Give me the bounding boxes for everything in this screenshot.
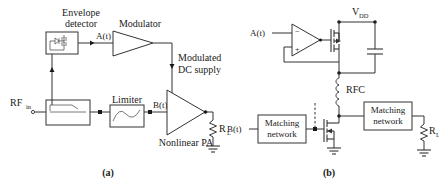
node-marker-nmos-gate xyxy=(313,127,317,131)
matching-network-output-label-line2: network xyxy=(373,116,403,126)
opamp-inverting-input-label: − xyxy=(295,27,300,36)
figure-container: Envelope detector A(t) Modulator xyxy=(0,0,439,187)
matching-network-input-label-line1: Matching xyxy=(265,118,300,128)
load-resistor-symbol-a xyxy=(210,120,217,137)
modulated-supply-label-line1: Modulated xyxy=(178,52,221,63)
ground-symbol-b-load xyxy=(417,150,431,156)
limiter-label: Limiter xyxy=(112,94,143,105)
panel-a: Envelope detector A(t) Modulator xyxy=(10,7,231,179)
coupler-box xyxy=(46,100,90,125)
envelope-detector-label-line1: Envelope xyxy=(62,7,100,18)
load-label-a: R xyxy=(219,123,226,134)
signal-a-label-panel-b: A(t) xyxy=(250,28,265,38)
ground-symbol-b-source xyxy=(327,148,341,154)
rf-in-label: RF xyxy=(10,97,23,108)
panel-b: V DD A(t) − + xyxy=(227,6,439,179)
rfc-inductor-symbol xyxy=(336,78,339,106)
bypass-capacitor-symbol xyxy=(367,49,383,54)
rf-in-label-subscript: in xyxy=(26,103,32,110)
arrow-coupler-to-detector xyxy=(50,67,55,72)
modulator-amplifier-symbol xyxy=(113,31,153,56)
signal-b-label-panel-a: B(t) xyxy=(153,100,168,110)
matching-network-output-label-line1: Matching xyxy=(371,105,406,115)
matching-network-input-label-line2: network xyxy=(267,129,297,139)
nonlinear-pa-symbol xyxy=(167,90,205,135)
rf-in-port-terminal xyxy=(31,110,34,113)
rfc-label: RFC xyxy=(346,84,365,95)
nonlinear-pa-label: Nonlinear PA xyxy=(159,137,214,148)
signal-b-label-panel-b: B(t) xyxy=(227,124,242,134)
wire-matching-out-to-load xyxy=(412,116,424,124)
panel-b-caption: (b) xyxy=(323,167,335,179)
circuit-diagram-svg: Envelope detector A(t) Modulator xyxy=(0,0,439,187)
envelope-detector-label-line2: detector xyxy=(65,18,98,29)
node-dot-pa-output xyxy=(204,110,208,114)
panel-a-caption: (a) xyxy=(102,167,114,179)
modulated-supply-label-line2: DC supply xyxy=(178,64,221,75)
opamp-noninverting-input-label: + xyxy=(295,45,300,54)
signal-a-label-panel-a: A(t) xyxy=(96,31,111,41)
node-dot-opamp-output xyxy=(319,38,322,41)
arrow-modulated-supply xyxy=(170,64,175,69)
vdd-label-subscript: DD xyxy=(359,12,369,19)
arrow-a-signal xyxy=(90,41,95,46)
load-resistor-symbol-b xyxy=(421,124,428,141)
nmos-transistor-symbol xyxy=(324,119,339,142)
load-label-b: R xyxy=(429,125,436,136)
node-marker-coupler-limiter xyxy=(98,110,102,114)
node-marker-b-signal xyxy=(148,110,152,114)
modulator-label: Modulator xyxy=(119,18,162,29)
